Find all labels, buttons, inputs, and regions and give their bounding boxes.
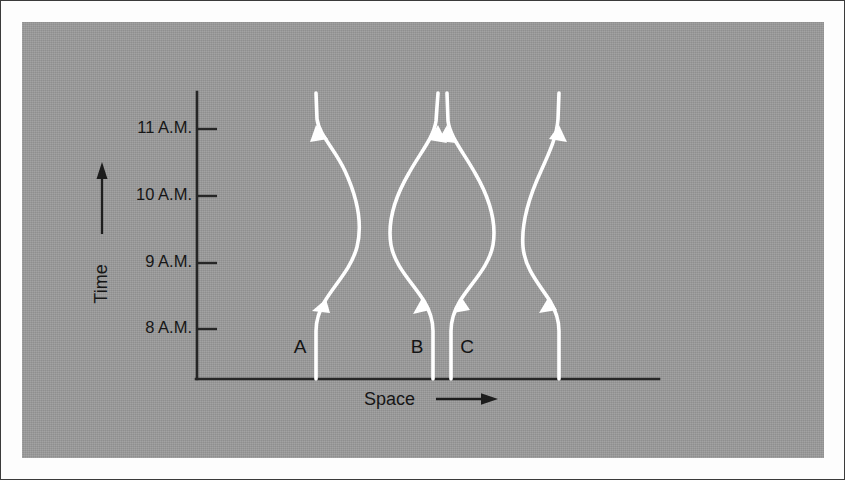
- y-axis-ticks: [197, 129, 217, 329]
- curve-label-a: A: [294, 336, 307, 357]
- plot-canvas: 11 A.M. 10 A.M. 9 A.M. 8 A.M. Time Space: [1, 1, 845, 480]
- x-axis-title-group: Space: [364, 389, 498, 409]
- arrow-head-a-lower-icon: [312, 299, 330, 313]
- curve-label-c: C: [460, 336, 474, 357]
- time-arrow-head-icon: [97, 162, 108, 179]
- y-tick-label-8am: 8 A.M.: [145, 318, 192, 336]
- figure-root: 11 A.M. 10 A.M. 9 A.M. 8 A.M. Time Space: [0, 0, 845, 480]
- arrow-head-d-upper-icon: [549, 125, 567, 142]
- y-axis-title: Time: [91, 264, 111, 303]
- y-tick-label-9am: 9 A.M.: [145, 252, 192, 270]
- y-axis-title-group: Time: [91, 162, 111, 304]
- curve-label-b: B: [411, 336, 424, 357]
- trajectory-curve-d: [523, 93, 567, 379]
- y-tick-label-10am: 10 A.M.: [136, 185, 192, 203]
- space-arrow-head-icon: [481, 393, 498, 405]
- x-axis-title: Space: [364, 389, 415, 409]
- curve-label-group: A B C: [294, 336, 474, 357]
- axis-group: [196, 92, 659, 379]
- trajectory-curve-a: [310, 93, 359, 379]
- y-axis-tick-labels: 11 A.M. 10 A.M. 9 A.M. 8 A.M.: [136, 118, 192, 336]
- y-tick-label-11am: 11 A.M.: [137, 118, 192, 136]
